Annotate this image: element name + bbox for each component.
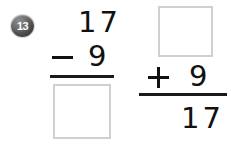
plus-sign-icon-stem xyxy=(157,67,160,88)
problem-right-sum: 17 xyxy=(181,104,224,133)
problem-left-minuend: 17 xyxy=(78,8,121,37)
minus-sign-icon xyxy=(52,56,73,59)
problem-right-addend: 9 xyxy=(189,62,210,91)
problem-right-sum-rule xyxy=(139,93,227,96)
question-number-label: 13 xyxy=(17,21,28,32)
math-worksheet: 13 17 9 9 17 xyxy=(0,0,231,150)
problem-left-answer-rule xyxy=(50,75,114,78)
question-number-badge: 13 xyxy=(11,15,34,37)
problem-left-subtrahend: 9 xyxy=(88,42,109,71)
problem-left-answer-box[interactable] xyxy=(53,84,111,139)
problem-right-answer-box[interactable] xyxy=(158,6,213,57)
